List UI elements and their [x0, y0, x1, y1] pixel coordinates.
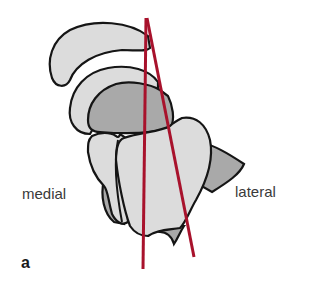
medial-label: medial: [22, 186, 66, 201]
panel-label: a: [21, 255, 30, 271]
central-bone: [116, 118, 211, 236]
lateral-label: lateral: [235, 184, 276, 199]
anatomical-diagram: [0, 0, 309, 289]
